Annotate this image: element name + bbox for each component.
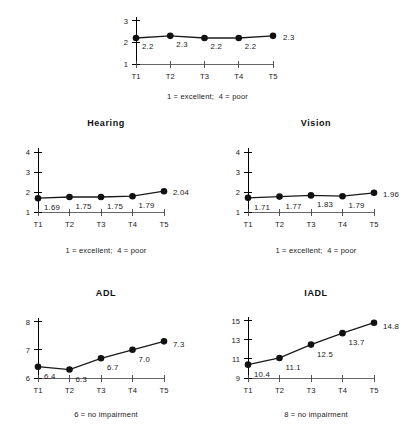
data-point-label: 1.79 <box>349 201 365 210</box>
y-tick-label: 13 <box>232 336 240 345</box>
plot-adl: 678T1T2T3T4T56.46.36.77.07.3 <box>8 308 204 404</box>
data-point <box>66 366 73 373</box>
x-tick-label: T3 <box>97 220 106 229</box>
data-point <box>276 355 283 362</box>
title-vision: Vision <box>218 118 414 128</box>
data-point <box>371 190 378 197</box>
y-tick-label: 7 <box>26 346 30 355</box>
x-tick-label: T3 <box>97 386 106 395</box>
data-point <box>245 361 252 368</box>
x-tick-label: T4 <box>128 386 137 395</box>
x-tick-label: T3 <box>307 386 316 395</box>
data-point <box>98 194 105 201</box>
x-tick-label: T1 <box>34 220 43 229</box>
caption-adl: 6 = no impairment <box>8 410 204 419</box>
data-point <box>201 35 208 42</box>
x-tick-label: T2 <box>275 386 284 395</box>
x-tick-label: T2 <box>65 220 74 229</box>
x-tick-label: T1 <box>132 72 141 81</box>
data-point <box>270 33 277 40</box>
plot-health: 123T1T2T3T4T52.22.32.22.22.3 <box>100 2 315 90</box>
x-tick-label: T2 <box>65 386 74 395</box>
y-tick-label: 3 <box>236 168 240 177</box>
data-point-label: 2.2 <box>142 42 153 51</box>
data-point <box>129 193 136 200</box>
data-point-label: 6.3 <box>76 375 87 384</box>
data-point-label: 14.8 <box>383 322 399 331</box>
y-tick-label: 2 <box>26 188 30 197</box>
caption-vision: 1 = excellent; 4 = poor <box>218 246 414 255</box>
data-point-label: 13.7 <box>349 338 365 347</box>
panel-iadl: IADL 9111315T1T2T3T4T510.411.112.513.714… <box>218 288 414 426</box>
x-tick-label: T3 <box>200 72 209 81</box>
y-tick-label: 11 <box>232 355 240 364</box>
data-point-label: 1.71 <box>254 203 270 212</box>
x-tick-label: T4 <box>338 386 347 395</box>
data-point <box>339 330 346 337</box>
chart-adl: 678T1T2T3T4T56.46.36.77.07.3 <box>8 308 204 404</box>
y-tick-label: 8 <box>26 318 30 327</box>
caption-health: 1 = excellent; 4 = poor <box>100 92 315 101</box>
data-point-label: 2.3 <box>283 33 294 42</box>
data-point-label: 1.96 <box>383 190 399 199</box>
data-point <box>35 363 42 370</box>
data-point <box>339 193 346 200</box>
data-point <box>35 195 42 202</box>
data-point-label: 1.83 <box>317 200 333 209</box>
x-tick-label: T4 <box>338 220 347 229</box>
title-hearing: Hearing <box>8 118 204 128</box>
y-tick-label: 2 <box>124 38 128 47</box>
data-point <box>235 35 242 42</box>
x-tick-label: T5 <box>269 72 278 81</box>
data-point <box>161 338 168 345</box>
data-point <box>245 195 252 202</box>
x-tick-label: T5 <box>370 220 379 229</box>
y-tick-label: 1 <box>124 60 128 69</box>
data-point-label: 2.3 <box>176 40 187 49</box>
data-point-label: 1.75 <box>107 202 123 211</box>
data-point-label: 7.3 <box>173 340 184 349</box>
data-point-label: 11.1 <box>286 363 301 372</box>
plot-vision: 1234T1T2T3T4T51.711.771.831.791.96 <box>218 140 414 240</box>
data-point <box>66 194 73 201</box>
x-tick-label: T2 <box>275 220 284 229</box>
y-tick-label: 1 <box>236 208 240 217</box>
data-point-label: 1.79 <box>139 201 155 210</box>
y-tick-label: 1 <box>26 208 30 217</box>
y-tick-label: 6 <box>26 374 30 383</box>
chart-health: 123T1T2T3T4T52.22.32.22.22.3 <box>100 2 315 90</box>
data-point <box>308 192 315 199</box>
x-tick-label: T5 <box>160 386 169 395</box>
data-point-label: 12.5 <box>317 350 333 359</box>
x-tick-label: T1 <box>34 386 43 395</box>
x-tick-label: T4 <box>234 72 243 81</box>
title-iadl: IADL <box>218 288 414 298</box>
x-tick-label: T2 <box>166 72 175 81</box>
data-point <box>167 33 174 40</box>
panel-hearing: Hearing 1234T1T2T3T4T51.691.751.751.792.… <box>8 118 204 260</box>
y-tick-label: 4 <box>236 148 240 157</box>
data-point-label: 6.7 <box>107 363 118 372</box>
caption-hearing: 1 = excellent; 4 = poor <box>8 246 204 255</box>
chart-vision: 1234T1T2T3T4T51.711.771.831.791.96 <box>218 140 414 240</box>
plot-iadl: 9111315T1T2T3T4T510.411.112.513.714.8 <box>218 308 414 404</box>
data-point-label: 2.2 <box>245 42 256 51</box>
data-point <box>308 341 315 348</box>
data-point-label: 7.0 <box>139 355 151 364</box>
chart-iadl: 9111315T1T2T3T4T510.411.112.513.714.8 <box>218 308 414 404</box>
data-point <box>161 188 168 195</box>
panel-health: 123T1T2T3T4T52.22.32.22.22.3 1 = excelle… <box>100 2 315 107</box>
data-point-label: 10.4 <box>254 370 270 379</box>
x-tick-label: T1 <box>244 220 253 229</box>
panel-vision: Vision 1234T1T2T3T4T51.711.771.831.791.9… <box>218 118 414 260</box>
y-tick-label: 4 <box>26 148 30 157</box>
x-tick-label: T5 <box>370 386 379 395</box>
plot-hearing: 1234T1T2T3T4T51.691.751.751.792.04 <box>8 140 204 240</box>
data-point <box>129 347 136 354</box>
x-tick-label: T5 <box>160 220 169 229</box>
y-tick-label: 2 <box>236 188 240 197</box>
panel-adl: ADL 678T1T2T3T4T56.46.36.77.07.3 6 = no … <box>8 288 204 426</box>
data-point-label: 2.04 <box>173 188 189 197</box>
title-adl: ADL <box>8 288 204 298</box>
caption-iadl: 8 = no impairment <box>218 410 414 419</box>
